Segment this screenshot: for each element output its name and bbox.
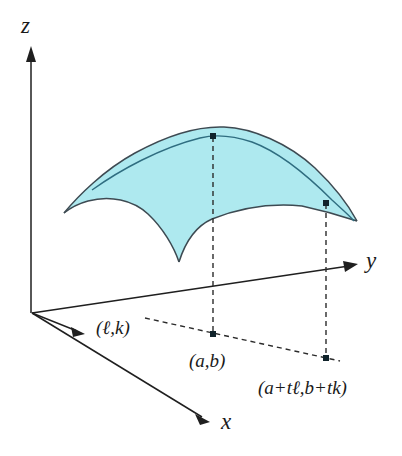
direction-vector-arrowhead (71, 327, 85, 337)
advanced-point-label: (a+tℓ,b+tk) (258, 377, 347, 399)
y-axis-line (32, 266, 349, 313)
z-axis-arrowhead (26, 46, 36, 62)
direction-vector-line (32, 313, 77, 331)
y-axis-arrowhead (343, 261, 358, 272)
dot-surface-point-above-ab (210, 133, 216, 139)
figure-root: z y x (ℓ,k) (a,b) (a+tℓ,b+tk) (0, 0, 402, 456)
direction-vector-label: (ℓ,k) (96, 317, 130, 339)
diagram-canvas: z y x (ℓ,k) (a,b) (a+tℓ,b+tk) (0, 0, 402, 456)
z-axis-label: z (20, 13, 30, 38)
base-point-label: (a,b) (189, 350, 225, 372)
surface-fill (64, 127, 357, 262)
dot-plane-point-ab (210, 331, 216, 337)
dashed-line-in-xy-plane (145, 318, 340, 361)
surface-group (64, 127, 357, 262)
y-axis-label: y (364, 248, 377, 273)
x-axis-arrowhead (195, 414, 210, 425)
x-axis-label: x (220, 409, 232, 434)
dot-plane-point-advanced (323, 355, 329, 361)
dot-surface-point-above-advanced (323, 200, 329, 206)
